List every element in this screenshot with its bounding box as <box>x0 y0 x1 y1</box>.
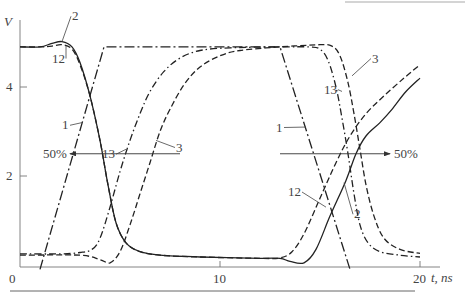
curve-label: 13 <box>324 82 337 97</box>
curve-labels: 21211331122313 <box>52 8 379 221</box>
curve-label-leader <box>338 90 342 92</box>
curve-label: 2 <box>72 8 79 23</box>
fifty-percent-label: 50% <box>394 146 418 161</box>
curve-label-leader <box>344 183 353 215</box>
curve-label: 12 <box>52 51 65 66</box>
chart: 0102024 50%50% 21211331122313 V t, ns <box>0 0 468 299</box>
curve-label: 3 <box>372 51 379 66</box>
curve-label-leader <box>70 123 82 126</box>
curve-label-leader <box>156 140 175 147</box>
series-curve-13 <box>20 47 420 257</box>
curve-label: 3 <box>176 140 183 155</box>
x-tick-label: 20 <box>413 271 426 286</box>
curve-label: 13 <box>102 146 115 161</box>
fifty-percent-label: 50% <box>43 146 67 161</box>
x-tick-label: 0 <box>9 271 16 286</box>
y-tick-label: 4 <box>6 79 13 94</box>
series-curve-2 <box>20 41 420 263</box>
x-axis-label: t, ns <box>431 270 453 285</box>
curve-label: 1 <box>276 120 283 135</box>
curve-label-leader <box>62 16 71 41</box>
x-tick-label: 10 <box>213 271 226 286</box>
y-tick-label: 2 <box>6 168 13 183</box>
curve-label: 12 <box>288 184 301 199</box>
curve-label-leader <box>352 59 371 76</box>
annotations: 50%50% <box>43 146 418 161</box>
y-axis-label: V <box>4 14 14 29</box>
series-group <box>20 41 420 269</box>
curve-label: 1 <box>62 117 69 132</box>
curve-label: 2 <box>354 206 361 221</box>
